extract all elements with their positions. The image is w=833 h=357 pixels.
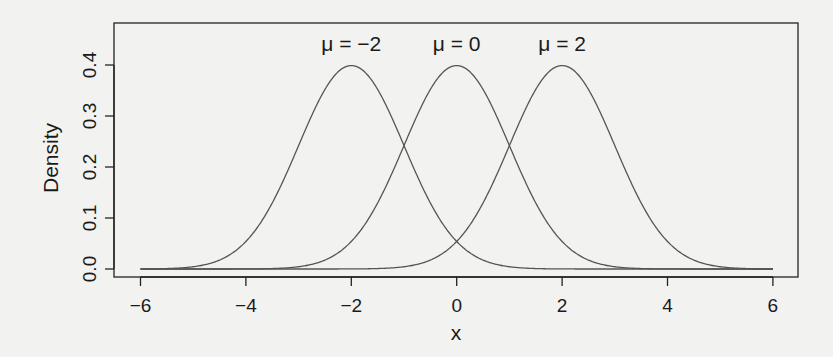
- normal-density-chart: −6−4−20246 0.00.10.20.30.4 μ = −2μ = 0μ …: [0, 0, 833, 357]
- y-axis-label: Density: [39, 122, 62, 193]
- x-tick-label: 2: [557, 295, 568, 316]
- density-curve: [141, 66, 773, 269]
- x-tick-label: 4: [662, 295, 673, 316]
- curve-label: μ = 2: [538, 32, 586, 55]
- y-tick-label: 0.2: [79, 154, 100, 180]
- curve-label: μ = 0: [433, 32, 481, 55]
- y-tick-label: 0.0: [79, 256, 100, 282]
- x-tick-label: −2: [340, 295, 362, 316]
- x-axis-label: x: [451, 321, 462, 344]
- x-tick-label: 6: [768, 295, 779, 316]
- y-tick-label: 0.3: [79, 103, 100, 129]
- curve-labels: μ = −2μ = 0μ = 2: [321, 32, 586, 55]
- x-tick-label: −6: [130, 295, 152, 316]
- x-axis: −6−4−20246: [130, 277, 779, 316]
- x-tick-label: −4: [235, 295, 257, 316]
- curve-label: μ = −2: [321, 32, 381, 55]
- y-tick-label: 0.1: [79, 205, 100, 231]
- x-tick-label: 0: [451, 295, 462, 316]
- density-curve: [141, 66, 773, 269]
- plot-frame: [114, 23, 798, 277]
- y-axis: 0.00.10.20.30.4: [79, 51, 114, 282]
- density-curve: [141, 66, 773, 269]
- y-tick-label: 0.4: [79, 51, 100, 78]
- density-curves: [141, 66, 773, 269]
